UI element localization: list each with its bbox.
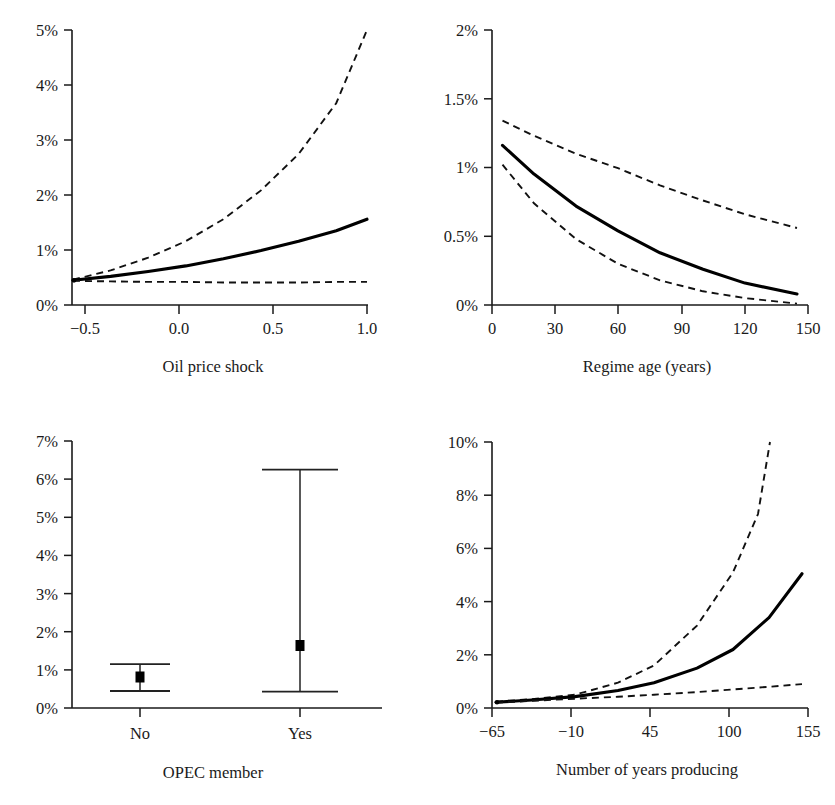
- x-tick-label: 30: [547, 319, 564, 338]
- chart-years-producing: 0% 2% 4% 6% 8% 10% −65 −10 45 100 155: [418, 403, 835, 805]
- y-tick-label: 0%: [456, 296, 478, 315]
- y-tick-labels: 0% 2% 4% 6% 8% 10%: [448, 433, 479, 718]
- x-tick-label: 120: [733, 319, 758, 338]
- x-ticks: [140, 708, 300, 717]
- y-tick-labels: 0% 1% 2% 3% 4% 5%: [36, 21, 58, 315]
- x-tick-label: 150: [796, 319, 821, 338]
- x-tick-label: 0.5: [263, 319, 284, 338]
- fitted-curve: [73, 219, 367, 280]
- y-tick-labels: 0% 1% 2% 3% 4% 5% 6% 7%: [36, 432, 58, 718]
- y-tick-labels: 0% 0.5% 1% 1.5% 2%: [444, 21, 479, 315]
- y-tick-label: 4%: [36, 76, 58, 95]
- y-tick-label: 5%: [36, 21, 58, 40]
- panel-regime-age: 0% 0.5% 1% 1.5% 2% 0 30 60 90 120 150: [418, 0, 835, 402]
- x-tick-label: −10: [558, 722, 584, 741]
- y-ticks: [484, 30, 492, 305]
- y-tick-label: 0%: [36, 296, 58, 315]
- marginal-effects-figure: 0% 1% 2% 3% 4% 5% −0.5 0.0 0.5 1.0: [0, 0, 835, 805]
- lower-ci-curve: [73, 281, 367, 283]
- y-tick-label: 2%: [36, 186, 58, 205]
- x-tick-label: 0.0: [169, 319, 190, 338]
- y-tick-label: 10%: [448, 433, 479, 452]
- y-tick-label: 5%: [36, 508, 58, 527]
- x-axis-title: Regime age (years): [583, 357, 711, 376]
- x-tick-labels: 0 30 60 90 120 150: [488, 319, 821, 338]
- y-tick-label: 2%: [456, 21, 478, 40]
- estimate-marker: [296, 640, 305, 651]
- y-tick-label: 6%: [36, 470, 58, 489]
- y-tick-label: 1%: [36, 661, 58, 680]
- x-ticks: [492, 305, 808, 314]
- y-tick-label: 4%: [456, 593, 478, 612]
- y-tick-label: 1%: [456, 158, 478, 177]
- y-tick-label: 1.5%: [444, 90, 479, 109]
- fitted-curve: [503, 145, 798, 294]
- y-tick-label: 6%: [456, 539, 478, 558]
- y-tick-label: 3%: [36, 585, 58, 604]
- y-tick-label: 0.5%: [444, 227, 479, 246]
- x-tick-label: 155: [796, 722, 821, 741]
- y-tick-label: 7%: [36, 432, 58, 451]
- x-tick-label: 0: [488, 319, 496, 338]
- x-tick-labels: No Yes: [130, 724, 312, 743]
- panel-years-producing: 0% 2% 4% 6% 8% 10% −65 −10 45 100 155: [418, 403, 835, 805]
- chart-opec-member: 0% 1% 2% 3% 4% 5% 6% 7% No Yes: [0, 403, 417, 805]
- upper-ci-curve: [73, 30, 367, 280]
- errorbar-yes: [262, 470, 338, 692]
- upper-ci-curve: [496, 442, 770, 702]
- x-tick-label: 100: [717, 722, 742, 741]
- x-tick-labels: −0.5 0.0 0.5 1.0: [70, 319, 377, 338]
- x-axis-title: Number of years producing: [556, 760, 738, 779]
- x-tick-label: 45: [642, 722, 659, 741]
- x-ticks: [492, 708, 808, 717]
- x-tick-label: −0.5: [70, 319, 100, 338]
- y-tick-label: 0%: [456, 699, 478, 718]
- y-tick-label: 0%: [36, 699, 58, 718]
- y-ticks: [64, 30, 72, 305]
- y-tick-label: 2%: [36, 623, 58, 642]
- chart-regime-age: 0% 0.5% 1% 1.5% 2% 0 30 60 90 120 150: [418, 0, 835, 402]
- x-tick-label: 60: [610, 319, 627, 338]
- panel-oil-price-shock: 0% 1% 2% 3% 4% 5% −0.5 0.0 0.5 1.0: [0, 0, 417, 402]
- start-point-marker: [72, 278, 77, 283]
- x-axis-title: Oil price shock: [163, 357, 265, 376]
- fitted-curve: [496, 574, 802, 703]
- y-tick-label: 1%: [36, 241, 58, 260]
- x-tick-label: −65: [479, 722, 505, 741]
- x-ticks: [85, 305, 367, 314]
- chart-oil-price-shock: 0% 1% 2% 3% 4% 5% −0.5 0.0 0.5 1.0: [0, 0, 417, 402]
- y-tick-label: 3%: [36, 131, 58, 150]
- start-point-marker: [495, 700, 500, 705]
- panel-opec-member: 0% 1% 2% 3% 4% 5% 6% 7% No Yes: [0, 403, 417, 805]
- y-tick-label: 8%: [456, 486, 478, 505]
- y-tick-label: 4%: [36, 546, 58, 565]
- estimate-marker: [136, 672, 145, 683]
- errorbar-no: [110, 664, 170, 691]
- x-axis-title: OPEC member: [163, 763, 264, 782]
- x-tick-label: 90: [674, 319, 691, 338]
- y-tick-label: 2%: [456, 646, 478, 665]
- y-ticks: [64, 441, 72, 708]
- x-tick-labels: −65 −10 45 100 155: [479, 722, 820, 741]
- upper-ci-curve: [503, 121, 798, 228]
- x-tick-label-no: No: [130, 724, 150, 743]
- x-tick-label: 1.0: [357, 319, 378, 338]
- x-tick-label-yes: Yes: [288, 724, 312, 743]
- y-ticks: [484, 442, 492, 708]
